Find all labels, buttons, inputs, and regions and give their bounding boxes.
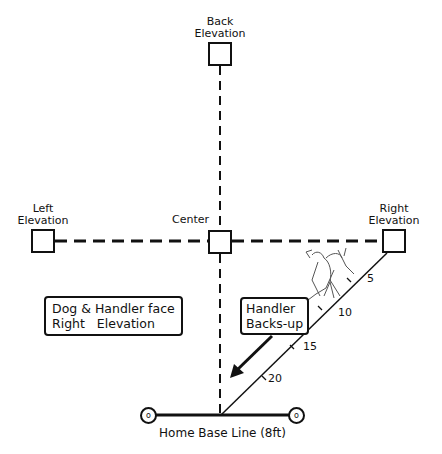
backs-up-line2: Backs-up	[246, 316, 303, 331]
right-elevation-label: Right Elevation	[354, 203, 434, 227]
home-base-line-label: Home Base Line (8ft)	[140, 427, 305, 439]
backs-up-line1: Handler	[246, 301, 303, 316]
face-direction-note: Dog & Handler face Right Elevation	[44, 296, 183, 336]
diagram-canvas: Back Elevation Left Elevation Center Rig…	[0, 0, 442, 454]
back-elevation-label: Back Elevation	[180, 16, 260, 40]
center-station	[208, 230, 232, 254]
handler-backs-up-note: Handler Backs-up	[240, 297, 309, 335]
back-elevation-station	[208, 42, 232, 66]
distance-mark-5: 5	[367, 272, 374, 285]
right-elevation-station	[382, 229, 406, 253]
right-label-line2: Elevation	[354, 215, 434, 227]
distance-mark-20: 20	[268, 372, 282, 385]
diagram-lines	[0, 0, 442, 454]
distance-mark-15: 15	[303, 340, 317, 353]
left-label-line2: Elevation	[3, 215, 83, 227]
home-base-right-post-icon: o	[288, 407, 305, 424]
left-elevation-label: Left Elevation	[3, 203, 83, 227]
back-label-line2: Elevation	[180, 28, 260, 40]
left-elevation-station	[31, 229, 55, 253]
face-note-line2: Right Elevation	[52, 316, 175, 331]
home-base-left-post-icon: o	[140, 407, 157, 424]
distance-mark-10: 10	[338, 306, 352, 319]
center-label: Center	[172, 214, 222, 226]
face-note-line1: Dog & Handler face	[52, 301, 175, 316]
